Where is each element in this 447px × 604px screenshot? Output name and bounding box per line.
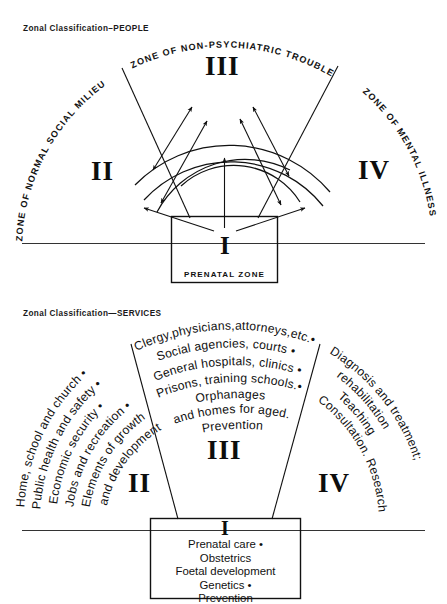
services-numeral-3: III	[207, 437, 242, 464]
people-numeral-3: III	[205, 53, 240, 80]
services-numeral-1: I	[221, 518, 230, 538]
people-numeral-2: II	[91, 158, 114, 185]
people-numeral-1: I	[220, 233, 231, 258]
services-center-line-0: Prenatal care •	[150, 538, 301, 552]
prenatal-zone-caption: PRENATAL ZONE	[171, 270, 278, 279]
zone-divider-left	[122, 68, 190, 218]
double-arrow-lower-left	[161, 121, 207, 203]
people-numeral-4: IV	[358, 157, 390, 184]
services-center-line-1: Obstetrics	[150, 552, 301, 566]
zone4-people-label: ZONE OF MENTAL ILLNESS	[361, 86, 438, 218]
zone-divider-right	[258, 66, 338, 218]
services-center-line-4: Prevention	[150, 592, 301, 604]
services-center-line-2: Foetal development	[150, 565, 301, 579]
diagram-vector-layer: ZONE OF NORMAL SOCIAL MILIEU ZONE OF NON…	[0, 0, 447, 604]
arc-second	[144, 162, 323, 206]
services-center-box-list: Prenatal care • Obstetrics Foetal develo…	[150, 538, 301, 604]
arc-third	[157, 159, 290, 212]
services-numeral-2: II	[128, 470, 151, 497]
double-arrow-upper-right	[253, 107, 289, 176]
double-arrow-lower-right	[240, 119, 281, 205]
double-arrow-upper-left	[153, 107, 192, 170]
zone3-services-line-6: Prevention	[201, 418, 264, 436]
services-center-line-3: Genetics •	[150, 579, 301, 593]
services-numeral-4: IV	[318, 470, 350, 497]
box-arrow-far-right	[236, 208, 305, 231]
box-arrow-far-left	[144, 208, 214, 231]
diagram-canvas: Zonal Classification–PEOPLE Zonal Classi…	[0, 0, 447, 604]
